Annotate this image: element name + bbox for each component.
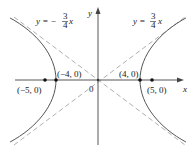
point-label-pos5: (5, 0) (147, 85, 167, 95)
svg-text:4: 4 (63, 20, 68, 30)
hyperbola-diagram: (−5, 0) (−4, 0) (4, 0) (5, 0) 0 x y y = … (0, 0, 196, 155)
point-pos4 (138, 78, 142, 82)
point-pos5 (150, 78, 154, 82)
svg-text:y = −: y = − (35, 16, 57, 26)
point-label-neg4: (−4, 0) (57, 69, 82, 79)
svg-text:4: 4 (151, 20, 156, 30)
y-axis-arrow-icon (96, 7, 101, 14)
asymptote-label-negative: y = − 3 4 x (35, 11, 73, 30)
x-axis-arrow-icon (177, 78, 184, 83)
origin-point (97, 79, 99, 81)
y-axis-label: y (87, 8, 92, 18)
point-label-neg5: (−5, 0) (17, 85, 42, 95)
svg-text:y =: y = (132, 16, 145, 26)
x-axis-label: x (182, 84, 187, 94)
asymptote-label-positive: y = 3 4 x (132, 11, 162, 30)
point-label-pos4: (4, 0) (119, 69, 139, 79)
origin-label: 0 (89, 84, 94, 94)
svg-text:x: x (68, 16, 73, 26)
svg-text:x: x (157, 16, 162, 26)
point-neg5 (43, 78, 47, 82)
